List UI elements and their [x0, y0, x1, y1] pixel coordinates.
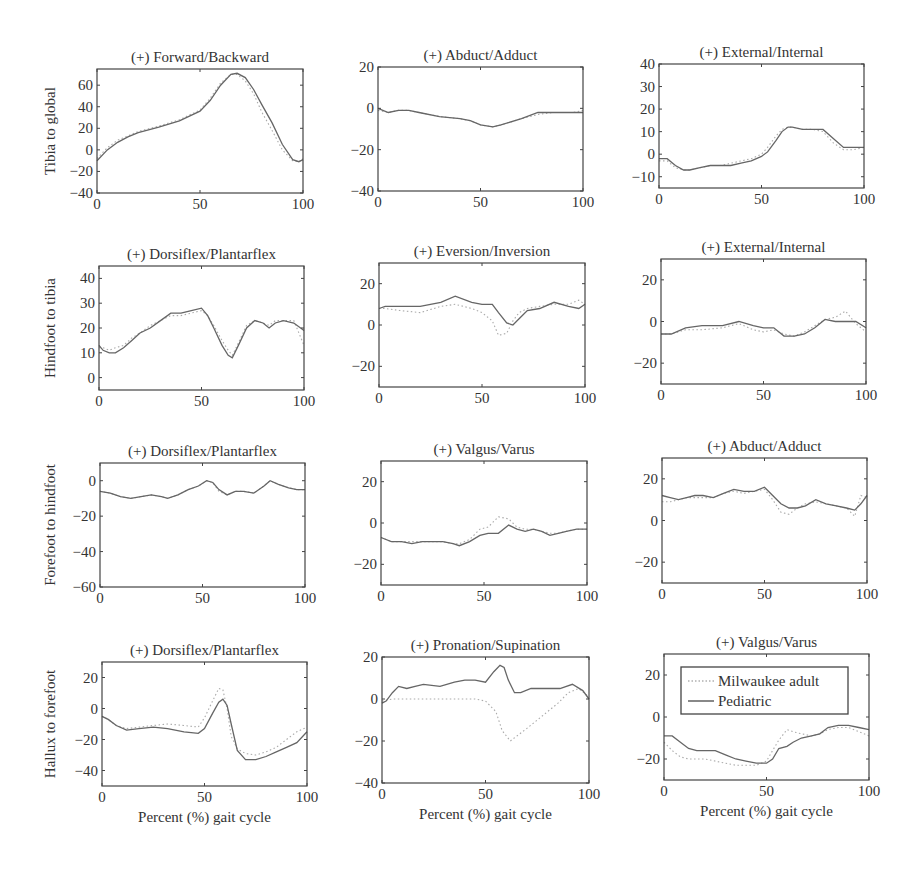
pediatric-line	[661, 319, 866, 336]
row-label: Hallux to forefoot	[42, 669, 58, 778]
y-tick-label: −20	[351, 142, 374, 158]
y-tick-label: 0	[651, 513, 659, 529]
x-tick-label: 0	[375, 390, 383, 406]
y-tick-label: −40	[75, 763, 98, 779]
x-axis-label: Percent (%) gait cycle	[138, 809, 271, 826]
plot-frame	[382, 657, 589, 783]
x-tick-label: 0	[660, 783, 668, 799]
pediatric-line	[659, 127, 864, 170]
y-tick-label: −20	[635, 554, 658, 570]
subplot-title: (+) Valgus/Varus	[433, 441, 534, 458]
x-axis-label: Percent (%) gait cycle	[419, 806, 552, 823]
subplot-6: (+) External/Internal050100−20020	[634, 239, 878, 403]
x-tick-label: 50	[759, 783, 774, 799]
y-tick-label: 10	[640, 124, 655, 140]
y-tick-label: 20	[83, 670, 98, 686]
subplot-11: (+) Pronation/Supination050100−40−20020P…	[355, 637, 601, 823]
adult-line	[102, 688, 307, 755]
x-tick-label: 100	[858, 783, 881, 799]
row-label: Forefoot to hindfoot	[42, 463, 58, 585]
x-tick-label: 0	[93, 196, 101, 212]
subplot-title: (+) External/Internal	[702, 239, 826, 256]
x-tick-label: 50	[756, 387, 771, 403]
x-tick-label: 100	[293, 393, 316, 409]
y-tick-label: 20	[645, 667, 660, 683]
plot-frame	[662, 458, 867, 583]
x-tick-label: 50	[194, 393, 209, 409]
y-tick-label: 0	[650, 314, 658, 330]
x-tick-label: 50	[193, 196, 208, 212]
x-tick-label: 0	[658, 586, 666, 602]
subplot-title: (+) Forward/Backward	[131, 49, 269, 66]
plot-frame	[379, 263, 585, 387]
y-tick-label: −60	[73, 579, 96, 595]
x-tick-label: 100	[578, 786, 601, 802]
pediatric-line	[102, 699, 307, 759]
row-label: Tibia to global	[42, 87, 58, 175]
adult-line	[381, 517, 587, 544]
subplot-12: (+) Valgus/Varus050100−20020Percent (%) …	[637, 634, 881, 820]
adult-line	[662, 489, 867, 516]
subplot-3: (+) External/Internal050100−10010203040	[632, 44, 876, 207]
legend-entry-adult: Milwaukee adult	[718, 673, 820, 689]
y-tick-label: 20	[360, 276, 375, 292]
x-tick-label: 0	[95, 393, 103, 409]
x-tick-label: 100	[574, 390, 597, 406]
pediatric-line	[662, 487, 867, 510]
x-tick-label: 0	[374, 194, 382, 210]
subplot-title: (+) Dorsiflex/Plantarflex	[127, 246, 276, 263]
subplot-title: (+) Dorsiflex/Plantarflex	[128, 443, 277, 460]
x-tick-label: 50	[473, 194, 488, 210]
x-tick-label: 100	[855, 387, 878, 403]
subplot-9: (+) Abduct/Adduct050100−20020	[635, 438, 879, 602]
subplot-title: (+) Eversion/Inversion	[414, 243, 551, 260]
adult-line	[99, 311, 304, 356]
plot-frame	[100, 463, 305, 587]
legend-entry-pediatric: Pediatric	[718, 693, 772, 709]
y-tick-label: −20	[355, 733, 378, 749]
x-tick-label: 50	[754, 191, 769, 207]
y-tick-label: −40	[351, 183, 374, 199]
x-tick-label: 100	[853, 191, 876, 207]
x-tick-label: 100	[576, 588, 599, 604]
gait-kinematics-figure: (+) Forward/Backward050100−40−200204060T…	[0, 0, 916, 869]
pediatric-line	[379, 296, 585, 325]
subplot-title: (+) Pronation/Supination	[411, 637, 561, 654]
y-tick-label: 0	[648, 146, 656, 162]
legend: Milwaukee adultPediatric	[681, 667, 848, 714]
plot-frame	[99, 266, 304, 390]
y-tick-label: 20	[643, 471, 658, 487]
subplot-5: (+) Eversion/Inversion050100−20020	[352, 243, 597, 406]
y-tick-label: 40	[78, 99, 93, 115]
y-tick-label: 30	[80, 295, 95, 311]
subplot-1: (+) Forward/Backward050100−40−200204060T…	[42, 49, 314, 212]
y-tick-label: 0	[367, 100, 375, 116]
x-tick-label: 50	[477, 588, 492, 604]
x-tick-label: 50	[757, 586, 772, 602]
pediatric-line	[99, 308, 304, 358]
x-tick-label: 100	[572, 194, 595, 210]
pediatric-line	[664, 725, 869, 763]
pediatric-line	[97, 73, 303, 161]
subplot-title: (+) Abduct/Adduct	[424, 47, 539, 64]
x-tick-label: 0	[378, 786, 386, 802]
y-tick-label: −20	[634, 355, 657, 371]
y-tick-label: −20	[75, 732, 98, 748]
y-tick-label: 0	[370, 515, 378, 531]
y-tick-label: 20	[80, 320, 95, 336]
plot-frame	[381, 461, 587, 585]
y-tick-label: 20	[363, 649, 378, 665]
y-tick-label: 20	[640, 101, 655, 117]
x-tick-label: 50	[197, 789, 212, 805]
y-tick-label: 20	[78, 120, 93, 136]
plot-frame	[102, 662, 307, 786]
adult-line	[97, 74, 303, 161]
adult-line	[379, 300, 585, 335]
subplot-title: (+) Valgus/Varus	[716, 634, 817, 651]
y-tick-label: 10	[80, 345, 95, 361]
y-tick-label: −40	[70, 185, 93, 201]
x-tick-label: 100	[294, 590, 317, 606]
y-tick-label: −20	[73, 508, 96, 524]
y-tick-label: 30	[640, 79, 655, 95]
y-tick-label: 0	[86, 142, 94, 158]
